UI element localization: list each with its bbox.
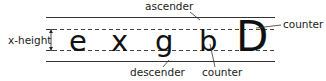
glyph-x: x	[111, 24, 128, 58]
descender-label: descender	[130, 66, 186, 78]
arrow-down-icon	[49, 47, 53, 51]
arrow-up-icon	[49, 30, 53, 34]
counter-b-label: counter	[202, 66, 243, 78]
glyph-e: e	[69, 24, 87, 58]
ascender-label: ascender	[145, 0, 194, 12]
x-height-label: x-height	[8, 34, 51, 46]
glyph-b: b	[199, 24, 217, 58]
glyph-D: D	[236, 12, 268, 61]
glyph-g: g	[155, 24, 173, 58]
ascender-leader	[190, 12, 200, 20]
counter-d-label: counter	[283, 18, 324, 30]
typography-diagram: x-height e x g b D ascender descender co…	[0, 0, 326, 81]
